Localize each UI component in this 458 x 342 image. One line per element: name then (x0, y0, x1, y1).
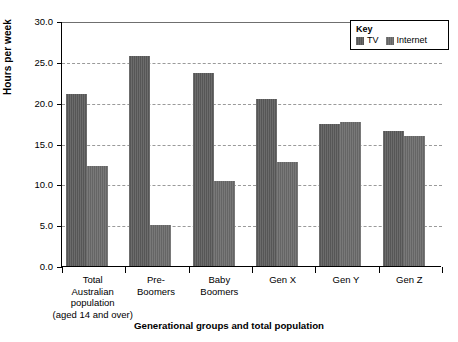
x-axis-title: Generational groups and total population (0, 320, 458, 331)
bar-tv (129, 56, 150, 266)
bar-tv (383, 131, 404, 266)
y-axis-tick-label: 25.0 (13, 58, 53, 68)
x-axis-tick-mark (125, 267, 126, 273)
legend-item: Internet (386, 36, 428, 45)
legend-label: TV (367, 36, 379, 45)
bar-group (62, 21, 125, 266)
x-axis-category-label-line: Gen Z (364, 274, 455, 286)
bar-group (125, 21, 188, 266)
bar-internet (340, 122, 361, 266)
x-axis-category-label: Gen Z (364, 274, 455, 286)
legend-item-list: TVInternet (356, 36, 444, 45)
legend-swatch-icon (356, 37, 364, 45)
bar-group (315, 21, 378, 266)
bar-tv (256, 99, 277, 266)
bar-internet (277, 162, 298, 266)
x-axis-tick-mark (379, 267, 380, 273)
y-axis-tick-label: 30.0 (13, 17, 53, 27)
y-axis-tick-label: 10.0 (13, 180, 53, 190)
bar-chart: Hours per week 30.025.020.015.010.05.00.… (0, 0, 458, 342)
y-axis-tick-label: 5.0 (13, 221, 53, 231)
y-axis-title: Hours per week (2, 19, 13, 95)
bar-internet (150, 225, 171, 266)
y-axis-tick-label: 15.0 (13, 140, 53, 150)
bar-tv (66, 94, 87, 266)
x-axis-tick-mark (315, 267, 316, 273)
x-axis-category-label-line: population (47, 297, 138, 309)
legend-item: TV (356, 36, 379, 45)
x-axis-tick-mark (252, 267, 253, 273)
x-axis-tick-mark (442, 267, 443, 273)
x-axis-tick-mark (189, 267, 190, 273)
bar-group (252, 21, 315, 266)
bar-group (189, 21, 252, 266)
bar-internet (87, 166, 108, 266)
x-axis-category-label-line: Boomers (174, 286, 265, 298)
legend-title: Key (356, 24, 444, 34)
x-axis-category-label-line: (aged 14 and over) (47, 309, 138, 321)
plot-area (61, 22, 441, 267)
legend-label: Internet (397, 36, 428, 45)
x-axis-tick-mark (62, 267, 63, 273)
legend-swatch-icon (386, 37, 394, 45)
bar-tv (193, 73, 214, 266)
bar-group (379, 21, 442, 266)
bar-internet (404, 136, 425, 266)
y-axis-tick-label: 20.0 (13, 99, 53, 109)
bar-tv (319, 124, 340, 266)
bar-internet (214, 181, 235, 266)
legend: Key TVInternet (350, 20, 449, 50)
y-axis-tick-label: 0.0 (13, 262, 53, 272)
